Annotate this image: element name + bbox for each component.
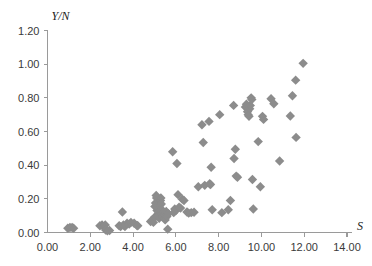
y-tick-label: 0.80 xyxy=(18,92,39,104)
data-point xyxy=(231,144,240,153)
data-point xyxy=(215,110,224,119)
data-point xyxy=(291,133,300,142)
y-tick-label: 0.00 xyxy=(18,227,39,239)
x-tick-label: 0.00 xyxy=(37,241,58,253)
x-tick-label: 8.00 xyxy=(208,241,229,253)
data-point xyxy=(256,182,265,191)
x-tick-label: 14.00 xyxy=(333,241,361,253)
y-tick-label: 0.40 xyxy=(18,159,39,171)
data-point xyxy=(298,59,307,68)
x-tick-label: 10.00 xyxy=(248,241,276,253)
data-point xyxy=(226,196,235,205)
data-point xyxy=(206,180,215,189)
data-point xyxy=(229,154,238,163)
x-tick-label: 12.00 xyxy=(290,241,318,253)
data-point xyxy=(254,137,263,146)
data-points-group xyxy=(63,59,308,236)
data-point xyxy=(229,101,238,110)
data-point xyxy=(172,159,181,168)
data-point xyxy=(286,111,295,120)
x-axis-title: S xyxy=(357,219,363,233)
data-point xyxy=(118,207,127,216)
data-point xyxy=(199,138,208,147)
chart-canvas: 0.000.200.400.600.801.001.20 0.002.004.0… xyxy=(0,0,372,266)
y-tick-label: 0.20 xyxy=(18,193,39,205)
data-point xyxy=(248,175,257,184)
x-tick-label: 4.00 xyxy=(122,241,143,253)
data-point xyxy=(206,162,215,171)
y-tick-label: 1.00 xyxy=(18,58,39,70)
data-point xyxy=(291,75,300,84)
data-point xyxy=(168,147,177,156)
y-tick-label: 1.20 xyxy=(18,25,39,37)
data-point xyxy=(275,156,284,165)
y-tick-label: 0.60 xyxy=(18,126,39,138)
x-axis-ticks: 0.002.004.006.008.0010.0012.0014.00 xyxy=(37,233,361,253)
x-tick-label: 6.00 xyxy=(165,241,186,253)
y-axis-title: Y/N xyxy=(52,9,71,23)
data-point xyxy=(208,205,217,214)
scatter-chart: 0.000.200.400.600.801.001.20 0.002.004.0… xyxy=(0,0,372,266)
data-point xyxy=(288,91,297,100)
y-axis-ticks: 0.000.200.400.600.801.001.20 xyxy=(18,25,47,239)
data-point xyxy=(249,204,258,213)
x-tick-label: 2.00 xyxy=(80,241,101,253)
